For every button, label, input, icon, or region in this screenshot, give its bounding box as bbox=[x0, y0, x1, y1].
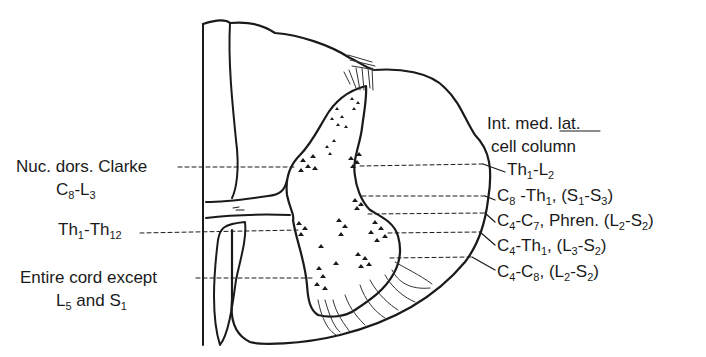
seg: C bbox=[497, 211, 509, 230]
seg: -S bbox=[570, 262, 587, 281]
sub: 3 bbox=[90, 189, 96, 201]
seg: ) bbox=[601, 236, 607, 255]
label-thoracic-range: Th1-Th12 bbox=[58, 220, 122, 240]
label-nuc-dors-clarke-range: C8-L3 bbox=[56, 180, 96, 200]
seg: Th bbox=[507, 160, 527, 179]
label-iml-header-2: cell column bbox=[491, 137, 576, 157]
seg: , (L bbox=[539, 262, 564, 281]
seg: -L bbox=[74, 180, 89, 199]
seg: ) bbox=[607, 186, 613, 205]
seg: ) bbox=[648, 211, 654, 230]
label-right-5: C4-C8, (L2-S2) bbox=[497, 262, 599, 282]
seg: -Th bbox=[515, 236, 541, 255]
seg: C bbox=[56, 180, 68, 199]
seg: -L bbox=[533, 160, 548, 179]
grey-matter bbox=[287, 86, 401, 317]
seg: -Th bbox=[515, 186, 545, 205]
seg: C bbox=[497, 236, 509, 255]
label-right-3: C4-C7, Phren. (L2-S2) bbox=[497, 211, 654, 231]
sub: 2 bbox=[548, 169, 554, 181]
right-leader-lines bbox=[360, 164, 485, 258]
seg: , (L bbox=[547, 236, 572, 255]
anterior-fissure bbox=[214, 222, 245, 345]
label-iml-header-1: Int. med. lat. bbox=[487, 114, 581, 134]
commissure bbox=[206, 215, 290, 218]
seg: -C bbox=[515, 211, 533, 230]
sub: 12 bbox=[109, 229, 121, 241]
seg: Th bbox=[58, 220, 78, 239]
posterior-bottom bbox=[206, 180, 287, 202]
seg: -S bbox=[584, 186, 601, 205]
label-nuc-dors-clarke: Nuc. dors. Clarke bbox=[16, 157, 147, 177]
seg: -S bbox=[578, 236, 595, 255]
label-entire-cord: Entire cord except bbox=[20, 268, 157, 288]
seg: , (S bbox=[552, 186, 578, 205]
seg: , Phren. (L bbox=[539, 211, 618, 230]
label-right-2: C8 -Th1, (S1-S3) bbox=[497, 186, 613, 206]
neuron-cell-groups bbox=[233, 97, 388, 290]
seg: ) bbox=[593, 262, 599, 281]
seg: C bbox=[497, 186, 509, 205]
sub: 1 bbox=[121, 300, 127, 312]
posterior-funiculus-edge bbox=[229, 23, 237, 198]
dorsal-root-fibers bbox=[344, 55, 376, 90]
seg: -S bbox=[625, 211, 642, 230]
spinal-cord-diagram: Nuc. dors. Clarke C8-L3 Th1-Th12 Entire … bbox=[0, 0, 706, 357]
cord-outline bbox=[203, 20, 490, 343]
seg: and S bbox=[72, 291, 121, 310]
label-right-1: Th1-L2 bbox=[507, 160, 554, 180]
label-entire-cord-range: L5 and S1 bbox=[56, 291, 127, 311]
seg: C bbox=[497, 262, 509, 281]
label-right-4: C4-Th1, (L3-S2) bbox=[497, 236, 607, 256]
seg: -Th bbox=[84, 220, 110, 239]
seg: -C bbox=[515, 262, 533, 281]
